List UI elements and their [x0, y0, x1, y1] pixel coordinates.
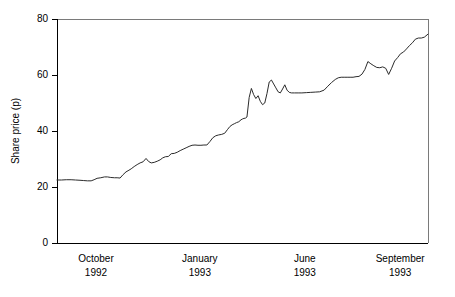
x-tick-label-month: September [376, 253, 426, 264]
x-tick-label-month: October [78, 253, 114, 264]
data-series-group [57, 34, 428, 181]
plot-frame [57, 19, 428, 243]
x-tick-label-year: 1993 [294, 267, 317, 278]
share-price-chart: 020406080 October1992January1993June1993… [0, 0, 455, 297]
y-tick-label: 80 [37, 13, 49, 24]
y-axis-title: Share price (p) [10, 98, 21, 164]
chart-canvas: 020406080 October1992January1993June1993… [0, 0, 455, 297]
x-axis-labels: October1992January1993June1993September1… [78, 253, 425, 278]
x-tick-label-month: January [182, 253, 218, 264]
y-tick-label: 60 [37, 69, 49, 80]
x-tick-label-year: 1993 [189, 267, 212, 278]
plot-axes [57, 19, 428, 243]
y-tick-label: 40 [37, 125, 49, 136]
series-line [57, 34, 428, 181]
x-tick-label-year: 1993 [389, 267, 412, 278]
y-tick-label: 0 [42, 237, 48, 248]
x-tick-label-year: 1992 [85, 267, 108, 278]
x-tick-label-month: June [294, 253, 316, 264]
y-tick-label: 20 [37, 181, 49, 192]
y-axis-ticks: 020406080 [37, 13, 57, 248]
